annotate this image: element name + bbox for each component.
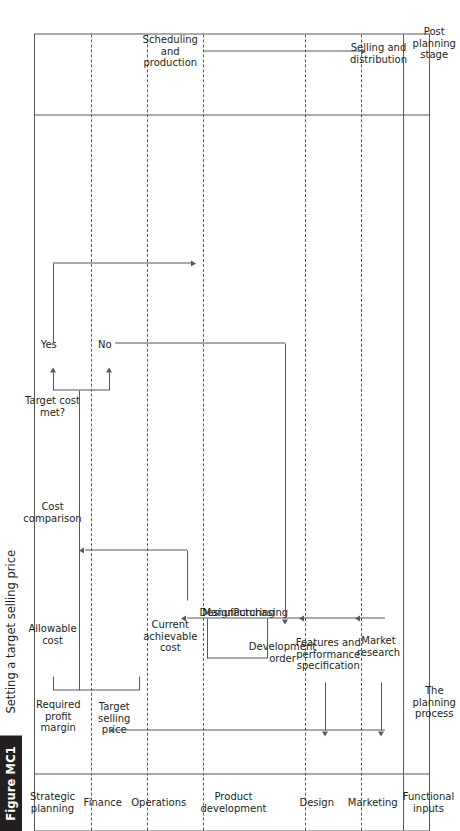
connector-bracket-bottom — [139, 676, 140, 690]
arrowhead-no — [106, 367, 112, 372]
arrowhead-into-design-lane — [322, 731, 328, 736]
connector-feedback-left-vertical — [115, 729, 385, 730]
node-yes-branch-label: Yes — [29, 338, 69, 350]
connector-dmp-bracket-top — [207, 618, 208, 658]
lane-label-product-development: Product development — [186, 791, 282, 814]
lane-divider-design-marketing — [361, 34, 362, 830]
arrowhead-into-cost-comparison — [79, 547, 84, 553]
node-allowable-cost: Allowable cost — [7, 623, 99, 646]
arrowhead-into-marketing-lane — [378, 731, 384, 736]
lane-label-operations: Operations — [124, 796, 194, 808]
connector-decision-no-vertical — [80, 389, 109, 390]
connector-bracket-vertical — [53, 689, 139, 690]
connector-achievable-out — [187, 550, 188, 600]
node-selling-and-distribution: Selling and distribution — [331, 42, 427, 65]
connector-dmp-bracket-left — [207, 657, 267, 658]
node-market-research: Market research — [333, 635, 425, 658]
connector-yes-to-scheduling-h — [53, 263, 54, 343]
node-purchasing: Purchasing — [221, 606, 301, 618]
connector-decision-yes-vertical — [53, 389, 80, 390]
connector-feedback-to-design — [325, 682, 326, 730]
arrowhead-into-features-specification — [355, 615, 360, 621]
connector-achievable-up — [85, 549, 187, 550]
node-target-cost-met: Target cost met? — [7, 395, 99, 418]
connector-dmp-bracket-bottom — [267, 618, 268, 658]
arrowhead-into-product-development — [282, 619, 288, 624]
arrowhead-into-current-achievable-cost — [181, 615, 186, 621]
arrowhead-into-development-order — [299, 615, 304, 621]
connector-no-loop-horizontal — [285, 343, 286, 618]
connector-feedback-to-marketing — [381, 682, 382, 730]
lane-divider-product-design — [305, 34, 306, 830]
connector-decision-no-horizontal — [109, 372, 110, 390]
arrowhead-yes — [50, 367, 56, 372]
arrowhead-into-selling-distribution — [361, 48, 366, 54]
band-divider-functional-inputs — [403, 34, 404, 830]
arrowhead-into-scheduling — [191, 260, 196, 266]
swimlane-grid: Strategic planning Finance Operations Pr… — [34, 33, 430, 831]
stage-label-planning-process: The planning process — [384, 685, 460, 720]
connector-allowable-to-target — [79, 390, 80, 690]
node-current-achievable-cost: Current achievable cost — [124, 619, 216, 654]
column-divider-lane-header — [35, 773, 429, 774]
lane-label-functional-inputs: Functional inputs — [394, 791, 460, 814]
lane-divider-operations-product — [203, 34, 204, 830]
arrowhead-into-target-selling-price — [109, 727, 114, 733]
connector-yes-to-scheduling-v — [53, 262, 191, 263]
figure-number-tag: Figure MC1 — [0, 735, 22, 831]
connector-no-loop-vertical — [115, 342, 285, 343]
connector-bracket-top — [53, 676, 54, 690]
node-cost-comparison: Cost comparison — [7, 501, 99, 524]
connector-scheduling-to-selling — [203, 50, 361, 51]
column-divider-post-planning — [35, 114, 429, 115]
connector-decision-yes-horizontal — [53, 372, 54, 390]
node-no-branch-label: No — [85, 338, 125, 350]
